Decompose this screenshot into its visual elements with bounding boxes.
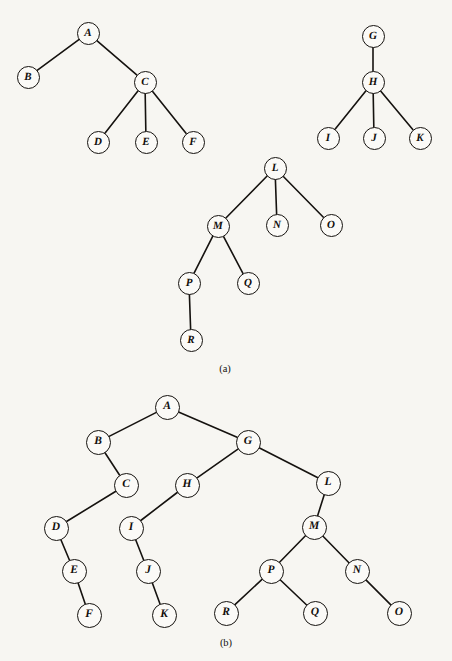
figure-canvas: ABCDEFGHIJKLMNOPQRABGCHLDIMEJPNFKRQO (a)… — [0, 0, 452, 661]
part-a-label: (a) — [219, 363, 231, 374]
part-caption-layer: (a)(b) — [0, 0, 452, 661]
part-b-label: (b) — [220, 637, 232, 648]
